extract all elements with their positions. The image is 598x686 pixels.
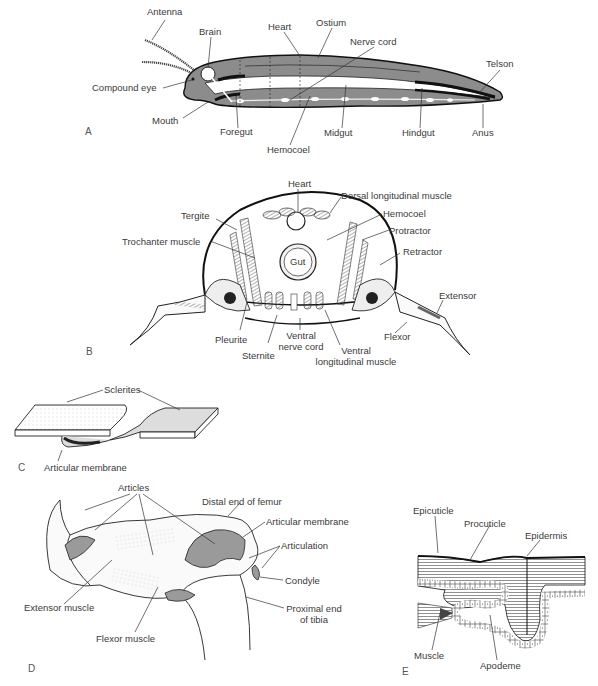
- label-extensor-muscle: Extensor muscle: [24, 602, 94, 613]
- label-procuticle: Procuticle: [464, 518, 506, 529]
- label-b-hemocoel: Hemocoel: [383, 208, 426, 219]
- label-muscle: Muscle: [414, 650, 444, 661]
- label-protractor: Protractor: [389, 225, 431, 236]
- label-pleurite: Pleurite: [215, 334, 247, 345]
- label-midgut: Midgut: [324, 127, 353, 138]
- panel-letter-d: D: [28, 663, 35, 674]
- label-brain: Brain: [199, 26, 221, 37]
- label-sclerites: Sclerites: [104, 384, 140, 395]
- label-trochanter-muscle: Trochanter muscle: [122, 236, 200, 247]
- label-articulation: Articulation: [281, 540, 328, 551]
- label-compound-eye: Compound eye: [92, 82, 156, 93]
- label-telson: Telson: [486, 58, 513, 69]
- label-retractor: Retractor: [403, 246, 442, 257]
- panel-letter-a: A: [85, 126, 92, 137]
- label-hemocoel: Hemocoel: [267, 144, 310, 155]
- label-epidermis: Epidermis: [525, 530, 567, 541]
- label-c-articular-membrane: Articular membrane: [44, 462, 127, 473]
- label-articles: Articles: [118, 482, 149, 493]
- label-heart: Heart: [268, 21, 291, 32]
- panel-a-drawing: [142, 40, 503, 107]
- label-d-articular-membrane: Articular membrane: [266, 516, 349, 527]
- label-distal-end-of-femur: Distal end of femur: [202, 496, 282, 507]
- label-apodeme: Apodeme: [480, 660, 521, 671]
- label-foregut: Foregut: [220, 126, 253, 137]
- label-ventral-longitudinal-muscle: Ventral longitudinal muscle: [310, 345, 402, 367]
- label-epicuticle: Epicuticle: [413, 505, 454, 516]
- label-proximal-end-of-tibia: Proximal end of tibia: [282, 603, 346, 625]
- label-condyle: Condyle: [285, 575, 320, 586]
- panel-c-drawing: [15, 405, 218, 447]
- label-nerve-cord: Nerve cord: [350, 36, 396, 47]
- label-dorsal-longitudinal-muscle: Dorsal longitudinal muscle: [341, 190, 452, 201]
- label-anus: Anus: [472, 127, 494, 138]
- panel-letter-b: B: [86, 346, 93, 357]
- label-antenna: Antenna: [147, 6, 182, 17]
- label-ostium: Ostium: [316, 17, 346, 28]
- label-sternite: Sternite: [242, 350, 275, 361]
- panel-e-drawing: [418, 556, 585, 645]
- label-mouth: Mouth: [152, 115, 178, 126]
- label-gut: Gut: [290, 256, 305, 267]
- label-flexor: Flexor: [384, 331, 410, 342]
- panel-letter-c: C: [18, 462, 25, 473]
- label-tergite: Tergite: [181, 210, 210, 221]
- label-hindgut: Hindgut: [402, 127, 435, 138]
- label-extensor: Extensor: [439, 290, 477, 301]
- panel-letter-e: E: [402, 666, 409, 677]
- label-b-heart: Heart: [288, 178, 311, 189]
- label-flexor-muscle: Flexor muscle: [96, 633, 155, 644]
